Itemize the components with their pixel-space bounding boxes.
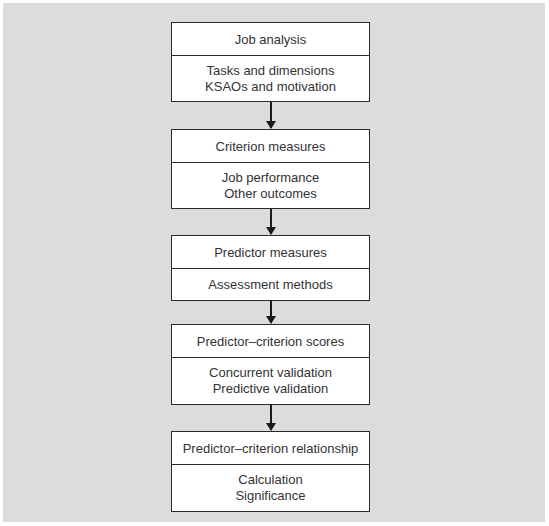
step-title: Job analysis [172,23,369,56]
step-body: Concurrent validation Predictive validat… [172,358,369,404]
step-body: Calculation Significance [172,465,369,511]
step-title: Predictor measures [172,236,369,269]
step-item: Calculation [238,472,302,488]
step-predictor-criterion-relationship: Predictor–criterion relationship Calcula… [171,431,370,512]
step-job-analysis: Job analysis Tasks and dimensions KSAOs … [171,22,370,102]
step-title: Criterion measures [172,130,369,163]
arrow-down-icon [270,405,272,430]
step-predictor-measures: Predictor measures Assessment methods [171,235,370,301]
step-item: Significance [235,488,305,504]
step-item: Assessment methods [208,277,332,293]
step-title: Predictor–criterion scores [172,325,369,358]
step-body: Assessment methods [172,269,369,300]
arrow-down-icon [270,301,272,323]
step-body: Job performance Other outcomes [172,163,369,208]
step-item: Other outcomes [224,186,317,202]
step-criterion-measures: Criterion measures Job performance Other… [171,129,370,209]
step-item: KSAOs and motivation [205,79,336,95]
step-item: Tasks and dimensions [207,63,335,79]
step-item: Concurrent validation [209,365,332,381]
arrow-down-icon [270,209,272,234]
step-item: Predictive validation [213,381,329,397]
step-title: Predictor–criterion relationship [172,432,369,465]
step-predictor-criterion-scores: Predictor–criterion scores Concurrent va… [171,324,370,405]
step-body: Tasks and dimensions KSAOs and motivatio… [172,56,369,101]
step-item: Job performance [222,170,320,186]
arrow-down-icon [270,102,272,128]
